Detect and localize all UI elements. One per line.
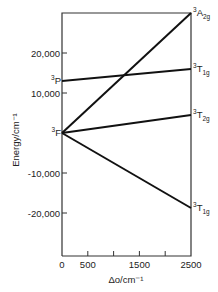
term-label-3t1gp: 3T1g <box>193 62 210 77</box>
term-label-3p: 3P <box>51 74 61 86</box>
x-tick-label: 2500 <box>180 259 201 270</box>
y-tick-label: 20,000 <box>31 48 60 59</box>
y-axis-title: Energy/cm⁻¹ <box>10 113 21 167</box>
y-tick-label: 10,000 <box>31 88 60 99</box>
y-axis-ticks: 20,00010,000-10,000-20,000 <box>28 48 67 219</box>
energy-lines <box>62 13 191 208</box>
term-label-3t2g: 3T2g <box>193 108 210 123</box>
term-labels: 3P3F3A2g3T1g3T2g3T1g <box>51 6 211 216</box>
axes-box <box>62 13 191 256</box>
y-tick-label: -20,000 <box>28 208 60 219</box>
line-3t1gp <box>62 69 191 81</box>
term-label-3a2g: 3A2g <box>193 6 211 21</box>
x-axis-title: Δo/cm⁻¹ <box>108 274 143 285</box>
term-label-3f: 3F <box>52 126 62 138</box>
line-3t1gf <box>62 133 191 208</box>
y-tick-label: -10,000 <box>28 168 60 179</box>
line-3t2g <box>62 115 191 133</box>
x-axis-ticks: 050015002500 <box>59 251 201 270</box>
energy-level-diagram: 20,00010,000-10,000-20,000 050015002500 … <box>0 0 218 292</box>
x-tick-label: 500 <box>80 259 96 270</box>
x-tick-label: 1500 <box>129 259 150 270</box>
term-label-3t1gf: 3T1g <box>193 201 210 216</box>
line-3a2g <box>62 13 191 133</box>
plot-frame <box>62 13 191 256</box>
x-tick-label: 0 <box>59 259 64 270</box>
